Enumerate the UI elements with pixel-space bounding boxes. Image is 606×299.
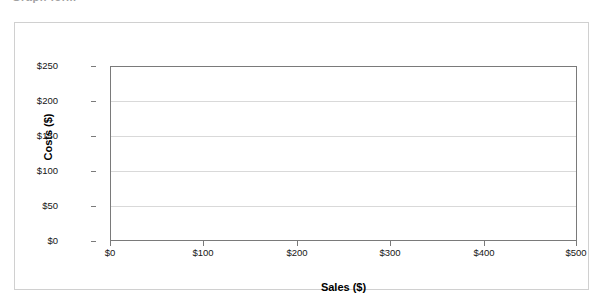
gridline-200	[111, 101, 576, 102]
x-tick-label-300: $300	[360, 247, 420, 258]
gridline-50	[111, 206, 576, 207]
y-tick-label-0: $0	[14, 236, 58, 246]
y-tick-mark-50	[91, 206, 96, 207]
gridline-100	[111, 171, 576, 172]
x-tick-mark-200	[297, 241, 298, 246]
y-tick-label-250: $250	[14, 61, 58, 71]
x-tick-label-500: $500	[546, 247, 606, 258]
x-tick-mark-500	[576, 241, 577, 246]
x-tick-mark-400	[484, 241, 485, 246]
plot-area[interactable]	[110, 66, 577, 241]
y-tick-label-100: $100	[14, 166, 58, 176]
chart-frame[interactable]: Costs ($) $250 $200 $150 $100 $50 $0 $0 …	[14, 22, 589, 290]
y-tick-label-50: $50	[14, 201, 58, 211]
y-tick-mark-0	[91, 241, 96, 242]
x-tick-label-100: $100	[173, 247, 233, 258]
y-tick-mark-200	[91, 101, 96, 102]
y-tick-mark-100	[91, 171, 96, 172]
x-tick-label-0: $0	[80, 247, 140, 258]
x-tick-mark-300	[390, 241, 391, 246]
gridline-150	[111, 136, 576, 137]
y-tick-mark-150	[91, 136, 96, 137]
clipped-header-text: Graph for...	[12, 0, 77, 3]
y-tick-label-200: $200	[14, 96, 58, 106]
x-tick-mark-100	[203, 241, 204, 246]
x-tick-label-200: $200	[267, 247, 327, 258]
y-tick-mark-250	[91, 66, 96, 67]
y-tick-label-150: $150	[14, 131, 58, 141]
x-tick-label-400: $400	[454, 247, 514, 258]
x-axis-title: Sales ($)	[110, 281, 577, 293]
x-tick-mark-0	[110, 241, 111, 246]
